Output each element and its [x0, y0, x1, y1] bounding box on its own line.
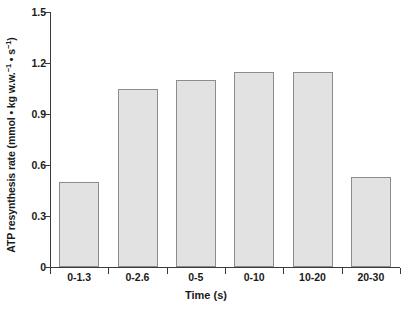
plot-area: [50, 12, 400, 267]
x-axis-tick-label: 0-2.6: [126, 272, 150, 283]
x-axis-tick-label: 10-20: [299, 272, 326, 283]
x-axis-tick-label: 20-30: [357, 272, 384, 283]
x-axis-title: Time (s): [0, 290, 412, 301]
y-axis-title-sup1: −1: [4, 64, 13, 72]
y-axis-tick-mark: [45, 216, 50, 217]
x-axis-tick-mark: [283, 268, 284, 274]
bar: [59, 182, 99, 267]
bar: [293, 72, 333, 268]
bar: [176, 80, 216, 267]
y-axis-tick-mark: [45, 63, 50, 64]
y-axis-tick-label: 0.3: [18, 211, 46, 222]
x-axis-tick-label: 0-5: [188, 272, 203, 283]
y-axis-tick-mark: [45, 12, 50, 13]
y-axis-title-tail: ): [6, 37, 18, 40]
y-axis-tick-label: 0.6: [18, 160, 46, 171]
x-axis-tick-mark: [400, 268, 401, 274]
y-axis-tick-mark: [45, 165, 50, 166]
y-axis-tick-label: 1.2: [18, 58, 46, 69]
y-axis-tick-labels: 00.30.60.91.21.5: [18, 0, 46, 290]
x-axis-tick-mark: [50, 268, 51, 274]
x-axis-tick-mark: [225, 268, 226, 274]
x-axis-tick-mark: [342, 268, 343, 274]
y-axis-title-sup2: −1: [4, 41, 13, 49]
y-axis-tick-mark: [45, 114, 50, 115]
y-axis-title-main: ATP resynthesis rate (mmol • kg w.w.: [6, 72, 18, 252]
x-axis-tick-mark: [167, 268, 168, 274]
x-axis-tick-label: 0-1.3: [67, 272, 91, 283]
bar: [234, 72, 274, 268]
x-axis-tick-mark: [108, 268, 109, 274]
y-axis-line: [50, 12, 51, 268]
y-axis-title-mid: • s: [6, 49, 18, 64]
bar: [351, 177, 391, 267]
y-axis-tick-label: 0.9: [18, 109, 46, 120]
bar-chart-figure: ATP resynthesis rate (mmol • kg w.w.−1 •…: [0, 0, 412, 311]
bar: [118, 89, 158, 268]
y-axis-tick-label: 1.5: [18, 7, 46, 18]
y-axis-tick-label: 0: [18, 262, 46, 273]
x-axis-tick-label: 0-10: [244, 272, 265, 283]
